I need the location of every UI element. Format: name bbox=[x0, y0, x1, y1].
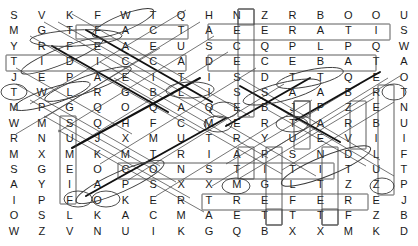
grid-cell[interactable]: T bbox=[0, 85, 28, 100]
grid-cell[interactable]: A bbox=[223, 147, 251, 162]
grid-cell[interactable]: D bbox=[56, 54, 84, 69]
grid-cell[interactable]: I bbox=[56, 177, 84, 192]
grid-cell[interactable]: N bbox=[390, 100, 418, 115]
grid-cell[interactable]: A bbox=[84, 177, 112, 192]
grid-cell[interactable]: E bbox=[223, 54, 251, 69]
grid-cell[interactable]: E bbox=[223, 100, 251, 115]
grid-cell[interactable]: F bbox=[56, 39, 84, 54]
grid-cell[interactable]: E bbox=[139, 193, 167, 208]
grid-cell[interactable]: C bbox=[223, 39, 251, 54]
grid-cell[interactable]: K bbox=[111, 193, 139, 208]
grid-cell[interactable]: B bbox=[306, 54, 334, 69]
grid-cell[interactable]: G bbox=[111, 85, 139, 100]
grid-cell[interactable]: S bbox=[195, 162, 223, 177]
grid-cell[interactable]: S bbox=[139, 177, 167, 192]
grid-cell[interactable]: C bbox=[139, 23, 167, 38]
grid-cell[interactable]: O bbox=[84, 162, 112, 177]
grid-cell[interactable]: J bbox=[279, 100, 307, 115]
grid-cell[interactable]: T bbox=[167, 23, 195, 38]
grid-cell[interactable]: A bbox=[195, 208, 223, 223]
grid-cell[interactable]: P bbox=[390, 177, 418, 192]
grid-cell[interactable]: A bbox=[111, 208, 139, 223]
grid-cell[interactable]: T bbox=[279, 116, 307, 131]
grid-cell[interactable]: R bbox=[84, 85, 112, 100]
grid-cell[interactable]: E bbox=[223, 208, 251, 223]
grid-cell[interactable]: C bbox=[111, 162, 139, 177]
grid-cell[interactable]: R bbox=[223, 131, 251, 146]
grid-cell[interactable]: I bbox=[251, 162, 279, 177]
grid-cell[interactable]: T bbox=[279, 162, 307, 177]
grid-cell[interactable]: T bbox=[334, 162, 362, 177]
grid-cell[interactable]: A bbox=[306, 116, 334, 131]
grid-cell[interactable]: Z bbox=[251, 8, 279, 23]
grid-cell[interactable]: R bbox=[0, 131, 28, 146]
grid-cell[interactable]: E bbox=[139, 39, 167, 54]
grid-cell[interactable]: U bbox=[390, 8, 418, 23]
grid-cell[interactable]: E bbox=[306, 193, 334, 208]
grid-cell[interactable]: T bbox=[306, 208, 334, 223]
grid-cell[interactable]: O bbox=[139, 162, 167, 177]
grid-cell[interactable]: E bbox=[251, 193, 279, 208]
grid-cell[interactable]: D bbox=[334, 147, 362, 162]
grid-cell[interactable]: T bbox=[390, 85, 418, 100]
grid-cell[interactable]: A bbox=[111, 39, 139, 54]
grid-cell[interactable]: T bbox=[139, 147, 167, 162]
grid-cell[interactable]: O bbox=[84, 193, 112, 208]
grid-cell[interactable]: L bbox=[362, 147, 390, 162]
grid-cell[interactable]: U bbox=[362, 162, 390, 177]
grid-cell[interactable]: Z bbox=[28, 224, 56, 239]
grid-cell[interactable]: Q bbox=[167, 8, 195, 23]
grid-cell[interactable]: M bbox=[111, 147, 139, 162]
grid-cell[interactable]: Q bbox=[139, 100, 167, 115]
grid-cell[interactable]: B bbox=[390, 208, 418, 223]
word-search-puzzle[interactable]: SVKFWTQHNZRBOOUMGTFACTAEERATISYRFEAEUSCQ… bbox=[0, 0, 418, 246]
grid-cell[interactable]: N bbox=[223, 8, 251, 23]
grid-cell[interactable]: M bbox=[0, 23, 28, 38]
grid-cell[interactable]: X bbox=[111, 131, 139, 146]
grid-cell[interactable]: T bbox=[334, 23, 362, 38]
grid-cell[interactable]: E bbox=[223, 116, 251, 131]
grid-cell[interactable]: I bbox=[28, 54, 56, 69]
grid-cell[interactable]: T bbox=[306, 177, 334, 192]
grid-cell[interactable]: R bbox=[223, 193, 251, 208]
grid-cell[interactable]: Q bbox=[195, 100, 223, 115]
grid-cell[interactable]: U bbox=[56, 131, 84, 146]
grid-cell[interactable]: N bbox=[167, 162, 195, 177]
grid-cell[interactable]: A bbox=[167, 100, 195, 115]
grid-cell[interactable]: K bbox=[84, 147, 112, 162]
grid-cell[interactable]: L bbox=[56, 208, 84, 223]
grid-cell[interactable]: D bbox=[390, 224, 418, 239]
grid-cell[interactable]: A bbox=[334, 54, 362, 69]
grid-cell[interactable]: V bbox=[334, 131, 362, 146]
grid-cell[interactable]: K bbox=[167, 224, 195, 239]
grid-cell[interactable]: T bbox=[223, 162, 251, 177]
grid-cell[interactable]: L bbox=[279, 177, 307, 192]
grid-cell[interactable]: E bbox=[251, 23, 279, 38]
grid-cell[interactable]: E bbox=[28, 70, 56, 85]
grid-cell[interactable]: J bbox=[84, 131, 112, 146]
grid-cell[interactable]: T bbox=[56, 23, 84, 38]
grid-cell[interactable]: T bbox=[279, 70, 307, 85]
grid-cell[interactable]: G bbox=[56, 100, 84, 115]
grid-cell[interactable]: X bbox=[195, 177, 223, 192]
grid-cell[interactable]: O bbox=[362, 8, 390, 23]
grid-cell[interactable]: I bbox=[84, 54, 112, 69]
grid-cell[interactable]: X bbox=[167, 177, 195, 192]
grid-cell[interactable]: T bbox=[306, 70, 334, 85]
grid-cell[interactable]: N bbox=[28, 131, 56, 146]
grid-cell[interactable]: R bbox=[279, 8, 307, 23]
grid-cell[interactable]: R bbox=[251, 116, 279, 131]
grid-cell[interactable]: L bbox=[167, 85, 195, 100]
grid-cell[interactable]: Y bbox=[0, 39, 28, 54]
grid-cell[interactable]: Z bbox=[334, 177, 362, 192]
grid-cell[interactable]: O bbox=[334, 8, 362, 23]
grid-cell[interactable]: G bbox=[195, 224, 223, 239]
grid-cell[interactable]: N bbox=[306, 147, 334, 162]
grid-cell[interactable]: F bbox=[390, 147, 418, 162]
grid-cell[interactable]: Q bbox=[251, 39, 279, 54]
grid-cell[interactable]: T bbox=[0, 54, 28, 69]
grid-cell[interactable]: S bbox=[0, 8, 28, 23]
grid-cell[interactable]: R bbox=[167, 193, 195, 208]
grid-cell[interactable]: T bbox=[195, 193, 223, 208]
grid-cell[interactable]: C bbox=[139, 54, 167, 69]
